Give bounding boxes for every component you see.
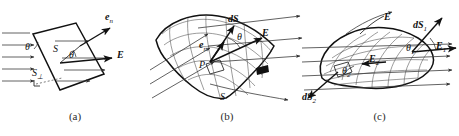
panel-c-drawing xyxy=(300,0,459,112)
panel-b-caption: (b) xyxy=(148,110,306,122)
field-label-E: E xyxy=(384,12,391,22)
figure-root: en S S⊥ θ θ E (a) xyxy=(0,0,459,136)
area-label-S: S xyxy=(53,44,58,54)
field-vector-arrow xyxy=(60,58,112,63)
flux-lines xyxy=(150,16,302,100)
point-label-P: P xyxy=(199,60,205,70)
angle-2-label: θ2 xyxy=(342,66,350,79)
area-perp-label: S⊥ xyxy=(32,68,43,81)
panel-a-drawing xyxy=(0,0,150,112)
panel-a-caption: (a) xyxy=(0,110,150,122)
field-2-label: E2 xyxy=(369,54,379,67)
field-label-E: E xyxy=(262,28,269,38)
panel-a: en S S⊥ θ θ E (a) xyxy=(0,0,150,136)
panel-b: dS en P θ E S (b) xyxy=(148,0,306,136)
panel-c-caption: (c) xyxy=(300,110,459,122)
field-label-E: E xyxy=(117,50,124,60)
area-element-label: dS xyxy=(228,14,239,24)
angle-label: θ xyxy=(237,32,242,42)
area-element-1-label: dS1 xyxy=(413,20,427,33)
element-patch-filled xyxy=(256,65,269,75)
field-1-vector xyxy=(412,48,456,52)
normal-vector-label: en xyxy=(105,12,113,25)
panel-b-drawing xyxy=(148,0,306,112)
panel-c: E dS1 θ1 E1 E2 θ2 dS2 (c) xyxy=(300,0,459,136)
area-element-2-label: dS2 xyxy=(302,92,316,105)
angle-label-left: θ xyxy=(25,42,30,52)
field-1-label: E1 xyxy=(436,41,446,54)
surface-label-S: S xyxy=(220,92,225,102)
angle-1-label: θ1 xyxy=(406,43,414,56)
unit-normal-label: en xyxy=(199,40,207,53)
angle-label-surface: θ xyxy=(69,50,74,60)
